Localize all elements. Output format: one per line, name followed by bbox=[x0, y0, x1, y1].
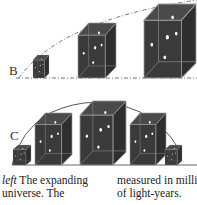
cube-tiny-right bbox=[165, 145, 182, 165]
cube-large bbox=[144, 4, 196, 78]
caption-left-column: left The expanding universe. The bbox=[2, 174, 88, 200]
caption-right-line2: of light-years. bbox=[117, 187, 197, 200]
panel-label-c: C bbox=[10, 129, 19, 142]
caption-left-line1-text: The expanding bbox=[17, 174, 88, 186]
expanding-universe-figure bbox=[0, 0, 197, 170]
cube-tiny-left bbox=[13, 145, 31, 165]
caption-left-line1: left The expanding bbox=[2, 174, 88, 187]
caption-italic-lead: left bbox=[2, 174, 17, 186]
cube-large-center bbox=[80, 101, 126, 165]
panel-c bbox=[12, 101, 197, 165]
cube-medium bbox=[78, 23, 116, 78]
panel-label-b: B bbox=[9, 64, 18, 77]
cube-medium-right bbox=[130, 113, 166, 165]
cube-small bbox=[33, 55, 49, 78]
panel-b bbox=[16, 0, 197, 78]
caption-right-line1: measured in milli bbox=[117, 174, 197, 187]
cube-medium-left bbox=[35, 113, 72, 165]
caption-right-column: measured in milli of light-years. bbox=[117, 174, 197, 200]
caption-left-line2: universe. The bbox=[2, 187, 88, 200]
